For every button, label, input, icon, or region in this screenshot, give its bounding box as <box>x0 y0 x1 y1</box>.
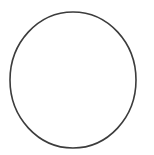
drawing-canvas <box>0 0 154 155</box>
canvas-background <box>0 0 154 155</box>
shape-canvas-svg <box>0 0 154 155</box>
